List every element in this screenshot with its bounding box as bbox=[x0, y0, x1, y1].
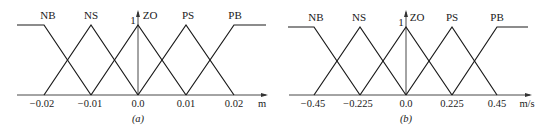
tick-b-1: −0.225 bbox=[343, 98, 373, 109]
set-label-ps-b: PS bbox=[446, 11, 458, 23]
fuzzy-membership-figure: NB NS ZO PS PB 1 −0.02 −0.01 0.0 0.01 0.… bbox=[0, 0, 545, 131]
caption-b: (b) bbox=[400, 113, 413, 125]
set-label-pb-a: PB bbox=[228, 9, 241, 21]
set-label-zo-a: ZO bbox=[143, 9, 158, 21]
tick-a-3: 0.01 bbox=[177, 98, 195, 109]
set-label-ns-a: NS bbox=[84, 9, 98, 21]
unit-label-b: m/s bbox=[519, 98, 534, 109]
mf-ns-a bbox=[44, 25, 138, 95]
x-axis-arrow-b bbox=[525, 93, 532, 97]
panel-a: NB NS ZO PS PB 1 −0.02 −0.01 0.0 0.01 0.… bbox=[17, 9, 268, 125]
mf-zo-a bbox=[91, 25, 186, 95]
set-label-pb-b: PB bbox=[490, 11, 503, 23]
y-axis-arrow-b bbox=[404, 10, 408, 17]
tick-b-3: 0.225 bbox=[440, 98, 464, 109]
x-axis-arrow-a bbox=[261, 93, 268, 97]
tick-a-2: 0.0 bbox=[131, 98, 144, 109]
set-label-nb-b: NB bbox=[308, 11, 323, 23]
set-label-zo-b: ZO bbox=[410, 11, 425, 23]
y-max-label-a: 1 bbox=[130, 14, 136, 26]
tick-a-1: −0.01 bbox=[78, 98, 102, 109]
tick-b-0: −0.45 bbox=[301, 98, 325, 109]
tick-a-4: 0.02 bbox=[225, 98, 243, 109]
mf-ns-b bbox=[314, 27, 406, 95]
mf-pb-a bbox=[186, 25, 266, 95]
mf-ps-a bbox=[138, 25, 234, 95]
y-axis-arrow-a bbox=[136, 10, 140, 17]
panel-b: NB NS ZO PS PB 1 −0.45 −0.225 0.0 0.225 … bbox=[288, 10, 535, 125]
mf-ps-b bbox=[406, 27, 497, 95]
y-max-label-b: 1 bbox=[398, 16, 404, 28]
tick-b-4: 0.45 bbox=[488, 98, 506, 109]
mf-nb-b bbox=[288, 27, 360, 95]
set-label-ns-b: NS bbox=[352, 11, 366, 23]
caption-a: (a) bbox=[132, 113, 145, 125]
unit-label-a: m bbox=[258, 98, 266, 109]
set-label-ps-a: PS bbox=[182, 9, 194, 21]
tick-a-0: −0.02 bbox=[30, 98, 54, 109]
tick-b-2: 0.0 bbox=[399, 98, 412, 109]
mf-nb-a bbox=[17, 25, 91, 95]
set-label-nb-a: NB bbox=[40, 9, 55, 21]
